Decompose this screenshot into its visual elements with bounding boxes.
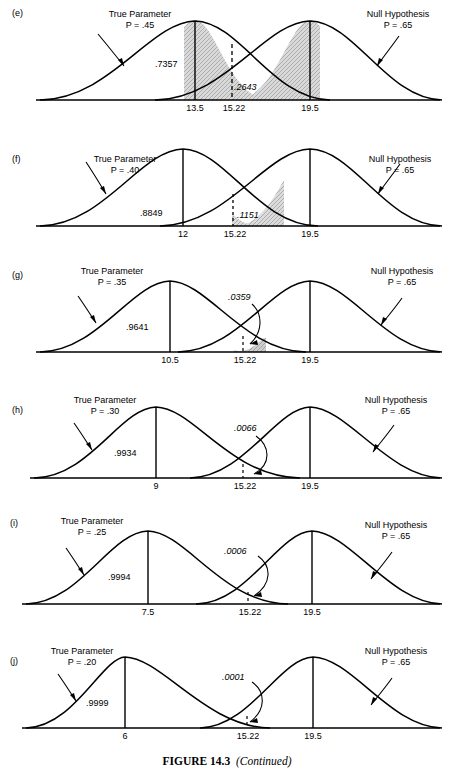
figure-caption-main: FIGURE 14.3 — [162, 755, 230, 767]
x-tick-f-2: 15.22 — [224, 229, 247, 239]
true-parameter-p-f: P = .40 — [111, 165, 140, 176]
beta-area-value-e: .2643 — [234, 82, 257, 92]
power-area-value-g: .9641 — [126, 322, 149, 332]
x-tick-j-3: 19.5 — [304, 731, 322, 741]
panel-letter-f: (f) — [12, 154, 21, 164]
true-parameter-label-g: True Parameter — [81, 266, 144, 277]
power-area-value-i: .9994 — [108, 572, 131, 582]
true-parameter-p-g: P = .35 — [98, 277, 127, 288]
panel-letter-h: (h) — [12, 405, 23, 415]
panel-g: (g) True Parameter P = .35 Null Hypothes… — [0, 252, 454, 377]
beta-area-value-f: .1151 — [237, 210, 259, 220]
null-hypothesis-p-e: P = .65 — [384, 20, 413, 31]
true-parameter-curve-g — [40, 281, 306, 352]
null-hypothesis-p-j: P = .65 — [382, 657, 411, 668]
true-parameter-label-f: True Parameter — [94, 154, 157, 165]
figure-caption: FIGURE 14.3 (Continued) — [0, 755, 454, 767]
power-area-value-h: .9934 — [114, 448, 137, 458]
true-parameter-p-i: P = .25 — [78, 527, 107, 538]
true-parameter-p-e: P = .45 — [126, 20, 155, 31]
null-hypothesis-p-g: P = .65 — [388, 277, 417, 288]
null-hypothesis-p-h: P = .65 — [382, 406, 411, 417]
shaded-beta-region-g — [95, 280, 385, 352]
x-tick-h-1: 9 — [153, 481, 158, 491]
x-tick-i-2: 15.22 — [239, 607, 262, 617]
x-tick-j-2: 15.22 — [237, 731, 260, 741]
null-hypothesis-p-i: P = .65 — [382, 531, 411, 542]
power-area-value-j: .9999 — [86, 698, 109, 708]
x-tick-h-3: 19.5 — [301, 481, 319, 491]
true-parameter-curve-h — [34, 407, 300, 478]
x-tick-f-1: 12 — [178, 229, 188, 239]
panel-letter-g: (g) — [12, 270, 23, 280]
panel-e: (e) True Parameter P = .45 Null Hypothes… — [0, 0, 454, 125]
x-tick-f-3: 19.5 — [301, 229, 319, 239]
panel-h: (h) True Parameter P = .30 Null Hypothes… — [0, 378, 454, 503]
null-hypothesis-curve-h — [190, 407, 442, 478]
true-parameter-curve-i — [26, 531, 288, 604]
x-tick-i-3: 19.5 — [303, 607, 321, 617]
x-tick-h-2: 15.22 — [234, 481, 257, 491]
power-area-value-e: .7357 — [155, 59, 178, 69]
true-parameter-p-h: P = .30 — [91, 406, 120, 417]
null-hypothesis-label-j: Null Hypothesis — [365, 646, 428, 657]
leader-arrowhead-true-f — [100, 186, 106, 194]
panel-letter-e: (e) — [12, 8, 23, 18]
x-tick-i-1: 7.5 — [142, 607, 155, 617]
x-tick-g-2: 15.22 — [234, 355, 257, 365]
panel-letter-j: (j) — [10, 656, 18, 666]
x-tick-g-3: 19.5 — [301, 355, 319, 365]
x-tick-e-1: 13.5 — [186, 103, 204, 113]
true-parameter-label-h: True Parameter — [74, 395, 137, 406]
beta-area-value-h: .0066 — [234, 423, 257, 433]
x-tick-j-1: 6 — [122, 731, 127, 741]
true-parameter-label-i: True Parameter — [61, 516, 124, 527]
beta-area-value-i: .0006 — [224, 546, 247, 556]
beta-leader-arrowhead-h — [254, 470, 262, 475]
figure-caption-note: (Continued) — [236, 755, 292, 767]
panel-f: (f) True Parameter P = .40 Null Hypothes… — [0, 126, 454, 251]
null-hypothesis-label-f: Null Hypothesis — [369, 154, 432, 165]
null-hypothesis-p-f: P = .65 — [386, 165, 415, 176]
null-hypothesis-label-g: Null Hypothesis — [371, 266, 434, 277]
panel-j: (j) True Parameter P = .20 Null Hypothes… — [0, 630, 454, 750]
true-parameter-label-e: True Parameter — [109, 9, 172, 20]
power-area-value-f: .8849 — [140, 208, 163, 218]
true-parameter-p-j: P = .20 — [68, 657, 97, 668]
true-parameter-label-j: True Parameter — [51, 646, 114, 657]
figure-14-3: (e) True Parameter P = .45 Null Hypothes… — [0, 0, 454, 775]
null-hypothesis-label-e: Null Hypothesis — [367, 9, 430, 20]
x-tick-e-2: 15.22 — [223, 103, 246, 113]
x-tick-e-3: 19.5 — [301, 103, 319, 113]
beta-area-value-g: .0359 — [228, 292, 251, 302]
x-tick-g-1: 10.5 — [161, 355, 179, 365]
null-hypothesis-label-i: Null Hypothesis — [365, 520, 428, 531]
panel-letter-i: (i) — [10, 518, 18, 528]
null-hypothesis-label-h: Null Hypothesis — [365, 395, 428, 406]
beta-area-value-j: .0001 — [222, 672, 245, 682]
panel-i: (i) True Parameter P = .25 Null Hypothes… — [0, 504, 454, 629]
